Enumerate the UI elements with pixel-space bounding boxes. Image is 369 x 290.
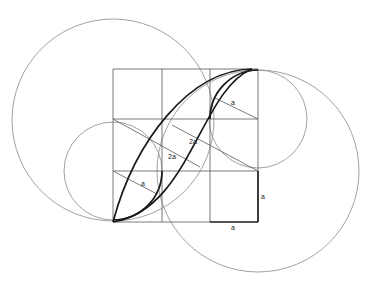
label-segment-lower: 2a [168,153,176,160]
radius-upper-right [215,98,258,119]
quarter-arc-lower-left [113,171,162,220]
radius-lower-left [113,171,157,194]
segment-2a-lower [113,119,200,167]
label-radius-lower-left: a [141,180,145,187]
label-bottom-side: a [231,224,235,231]
label-right-side: a [261,193,265,200]
square-grid [113,69,258,222]
segment-2a-upper [172,125,258,171]
geometry-diagram: a 2a 2a a a a [0,0,369,290]
label-segment-upper: 2a [189,138,197,145]
label-radius-upper-right: a [231,99,235,106]
lens-inner-arc [113,69,252,222]
lens-outer-arc [113,69,252,222]
